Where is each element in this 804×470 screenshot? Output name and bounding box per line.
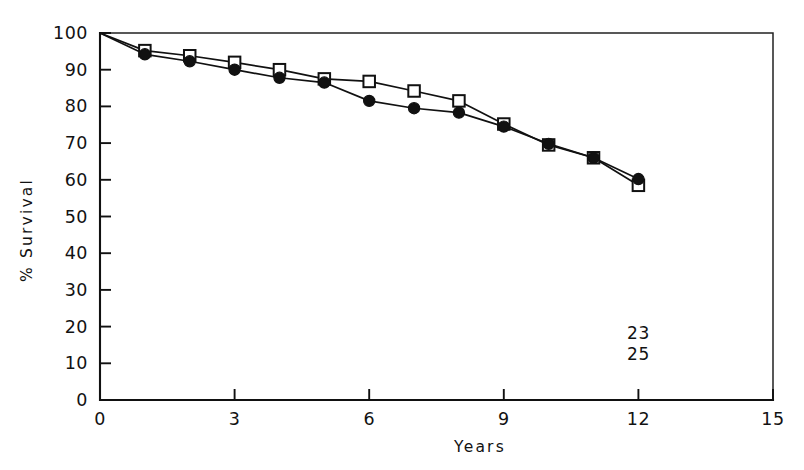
marker-filled-circle bbox=[588, 152, 599, 163]
y-axis-tick-label: 80 bbox=[65, 96, 88, 116]
y-axis-tick-label: 50 bbox=[65, 207, 88, 227]
x-axis-tick-label: 6 bbox=[363, 409, 375, 429]
marker-open-square bbox=[453, 95, 465, 107]
marker-filled-circle bbox=[229, 64, 240, 75]
x-axis-title: Years bbox=[453, 438, 506, 456]
survival-chart-figure: 0102030405060708090100 03691215 2325 % S… bbox=[0, 0, 804, 470]
y-axis-tick-label: 100 bbox=[53, 23, 88, 43]
x-axis-tick-label: 15 bbox=[761, 409, 784, 429]
marker-filled-circle bbox=[498, 121, 509, 132]
marker-filled-circle bbox=[319, 77, 330, 88]
x-axis-tick-label: 0 bbox=[94, 409, 106, 429]
marker-filled-circle bbox=[408, 103, 419, 114]
y-axis-tick-label: 40 bbox=[65, 243, 88, 263]
y-axis-tick-label: 70 bbox=[65, 133, 88, 153]
marker-filled-circle bbox=[364, 95, 375, 106]
y-axis-tick-label: 10 bbox=[65, 353, 88, 373]
chart-annotations: 2325 bbox=[627, 323, 650, 363]
y-axis-tick-label: 20 bbox=[65, 317, 88, 337]
survival-chart-svg: 0102030405060708090100 03691215 2325 % S… bbox=[0, 0, 804, 470]
marker-filled-circle bbox=[274, 72, 285, 83]
y-axis-title: % Survival bbox=[18, 178, 36, 282]
y-axis-tick-label: 0 bbox=[76, 390, 88, 410]
chart-annotation-label: 23 bbox=[627, 323, 650, 343]
x-axis-tick-label: 9 bbox=[498, 409, 510, 429]
marker-filled-circle bbox=[184, 56, 195, 67]
y-axis-tick-label: 90 bbox=[65, 60, 88, 80]
marker-open-square bbox=[363, 76, 375, 88]
x-axis-tick-label: 12 bbox=[627, 409, 650, 429]
marker-open-square bbox=[408, 85, 420, 97]
marker-filled-circle bbox=[633, 173, 644, 184]
y-axis-tick-label: 60 bbox=[65, 170, 88, 190]
y-axis-tick-label: 30 bbox=[65, 280, 88, 300]
x-axis-tick-label: 3 bbox=[229, 409, 241, 429]
chart-annotation-label: 25 bbox=[627, 344, 650, 364]
marker-filled-circle bbox=[453, 107, 464, 118]
marker-filled-circle bbox=[543, 138, 554, 149]
marker-filled-circle bbox=[139, 49, 150, 60]
